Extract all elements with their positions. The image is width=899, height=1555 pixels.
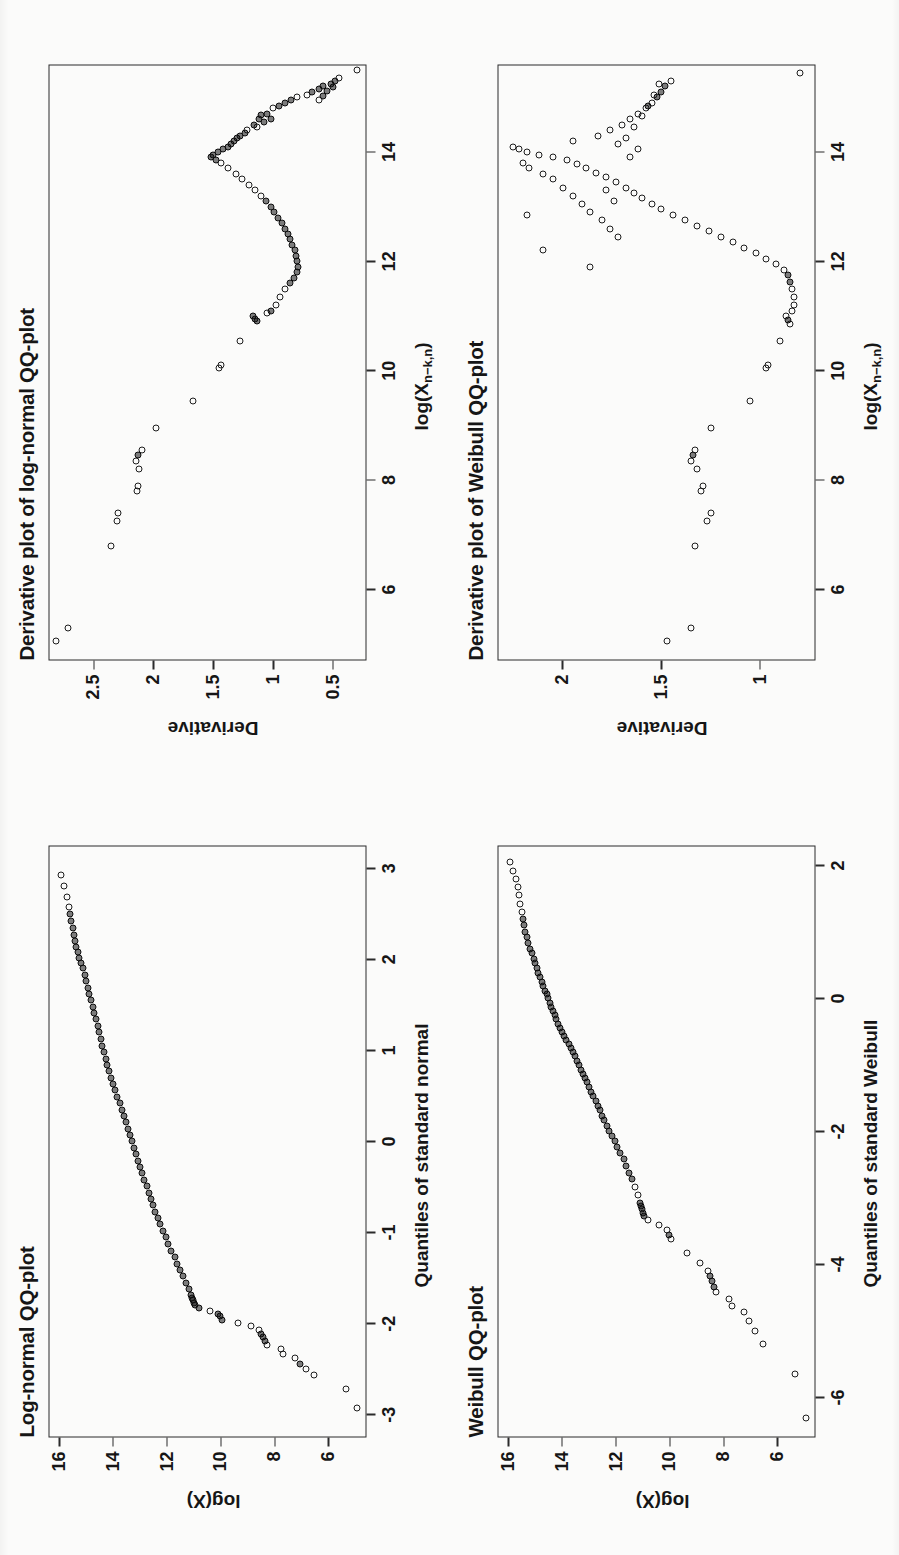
x-tick-label: 14 [378,141,399,161]
y-tick [776,1437,778,1446]
x-tick [815,997,824,999]
xaxis-label-subscript: n−k,n [869,348,884,382]
xaxis-label-weibull-derivative: log(Xn−k,n) [859,342,884,430]
yaxis-label-weibull-qq: log(X) [635,1489,689,1511]
x-tick [815,369,824,371]
xaxis-label-close: ) [859,342,880,348]
panel-weibull-qq: Weibull QQ-plot -6-4-2026810121416 Quant… [449,778,899,1555]
x-tick-label: 6 [378,584,399,594]
axis-ticks-lognormal-derivative: 681012140.511.522.5 [0,0,449,778]
x-tick [366,151,375,153]
y-tick [507,1437,509,1446]
y-tick-label: 2.5 [83,674,104,699]
y-tick [561,660,563,669]
y-tick-label: 1 [262,674,283,684]
x-tick [815,588,824,590]
yaxis-label-lognormal-qq: log(X) [186,1489,240,1511]
x-tick [815,1130,824,1132]
x-tick-label: -6 [827,1389,848,1405]
y-tick [759,660,761,669]
panel-weibull-derivative: Derivative plot of Weibull QQ-plot 68101… [449,0,899,778]
xaxis-label-subscript: n−k,n [420,348,435,382]
y-tick-label: 6 [318,1451,339,1461]
xaxis-label-lognormal-derivative: log(Xn−k,n) [410,342,435,430]
x-tick [366,1231,375,1233]
y-tick-label: 2 [143,674,164,684]
x-tick-label: -3 [378,1406,399,1422]
x-tick [815,479,824,481]
x-tick-label: 0 [378,1136,399,1146]
x-tick [366,867,375,869]
x-tick [815,260,824,262]
x-tick [366,1140,375,1142]
x-tick-label: 12 [378,251,399,271]
y-tick-label: 8 [713,1451,734,1461]
figure-grid: Log-normal QQ-plot -3-2-101236810121416 … [0,0,899,1555]
x-tick-label: -2 [827,1123,848,1139]
y-tick [660,660,662,669]
xaxis-label-main: log(X [410,383,431,431]
y-tick-label: 10 [659,1451,680,1471]
y-tick-label: 2 [552,674,573,684]
x-tick [366,958,375,960]
panel-lognormal-derivative: Derivative plot of log-normal QQ-plot 68… [0,0,449,778]
y-tick-label: 14 [551,1451,572,1471]
x-tick [366,260,375,262]
y-tick [332,660,334,669]
xaxis-label-close: ) [410,342,431,348]
x-tick-label: 8 [378,475,399,485]
rotated-page-wrapper: Log-normal QQ-plot -3-2-101236810121416 … [0,0,899,1555]
y-tick-label: 1 [749,674,770,684]
y-tick [561,1437,563,1446]
x-tick-label: 2 [378,954,399,964]
y-tick-label: 1.5 [650,674,671,699]
axis-ticks-weibull-qq: -6-4-2026810121416 [449,778,899,1555]
x-tick-label: 3 [378,863,399,873]
xaxis-label-weibull-qq: Quantiles of standard Weibull [859,1019,881,1287]
axis-ticks-weibull-derivative: 6810121411.52 [449,0,899,778]
x-tick-label: -2 [378,1315,399,1331]
y-tick [58,1437,60,1446]
x-tick-label: 2 [827,860,848,870]
y-tick-label: 10 [210,1451,231,1471]
x-tick [366,1322,375,1324]
x-tick [815,151,824,153]
x-tick [366,369,375,371]
x-tick-label: 12 [827,251,848,271]
y-tick [669,1437,671,1446]
y-tick [274,1437,276,1446]
x-tick [815,1263,824,1265]
y-tick [327,1437,329,1446]
axis-ticks-lognormal-qq: -3-2-101236810121416 [0,778,449,1555]
y-tick-label: 8 [264,1451,285,1461]
panel-lognormal-qq: Log-normal QQ-plot -3-2-101236810121416 … [0,778,449,1555]
y-tick-label: 0.5 [322,674,343,699]
x-tick-label: 1 [378,1045,399,1055]
x-tick [366,479,375,481]
y-tick [112,1437,114,1446]
x-tick-label: 10 [827,360,848,380]
y-tick [220,1437,222,1446]
x-tick [815,864,824,866]
x-tick-label: 6 [827,584,848,594]
xaxis-label-main: log(X [859,383,880,431]
y-tick-label: 12 [605,1451,626,1471]
y-tick-label: 16 [497,1451,518,1471]
y-tick-label: 16 [48,1451,69,1471]
y-tick [212,660,214,669]
y-tick [723,1437,725,1446]
y-tick [93,660,95,669]
y-tick-label: 14 [102,1451,123,1471]
x-tick [815,1396,824,1398]
x-tick [366,1413,375,1415]
yaxis-label-weibull-derivative: Derivative [616,716,707,738]
yaxis-label-lognormal-derivative: Derivative [167,716,258,738]
y-tick-label: 6 [767,1451,788,1461]
y-tick [272,660,274,669]
y-tick-label: 1.5 [202,674,223,699]
y-tick [152,660,154,669]
xaxis-label-lognormal-qq: Quantiles of standard normal [410,1023,432,1287]
x-tick-label: 10 [378,360,399,380]
y-tick [615,1437,617,1446]
x-tick-label: 0 [827,993,848,1003]
